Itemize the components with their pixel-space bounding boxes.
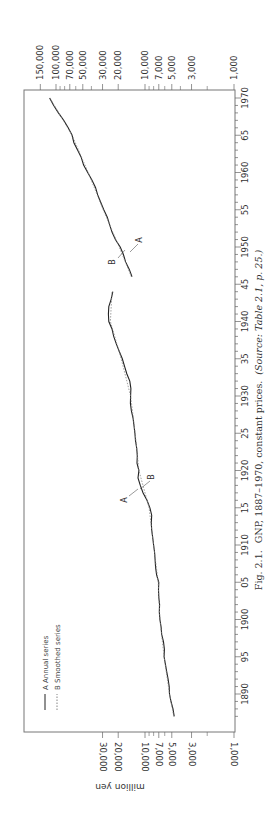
value-tick-label: 100,000 <box>51 45 61 80</box>
value-tick-label: 3,000 <box>187 742 197 766</box>
series-annotation: A <box>120 497 129 503</box>
value-tick-label: 20,000 <box>113 742 123 772</box>
y-axis-label: million yen <box>95 782 144 792</box>
value-tick-label: 10,000 <box>140 50 150 80</box>
year-tick-label: 1970 <box>240 87 250 109</box>
year-tick-label: 1900 <box>240 609 250 631</box>
legend-label-a: A Annual series <box>42 635 50 690</box>
year-tick-label: 1910 <box>240 534 250 556</box>
year-tick-label: 1960 <box>240 162 250 184</box>
value-tick-label: 150,000 <box>35 45 45 80</box>
series-annotation: B <box>108 259 117 265</box>
value-axis-bottom: 30,00020,00010,0007,0005,0003,0001,000 <box>98 732 239 772</box>
value-tick-label: 20,000 <box>113 50 123 80</box>
year-tick-label: 25 <box>240 428 250 439</box>
value-tick-label: 70,000 <box>65 50 75 80</box>
value-tick-label: 10,000 <box>140 742 150 772</box>
annual-series-line <box>108 292 174 717</box>
legend: A Annual series B Smoothed series <box>42 624 62 710</box>
year-tick-label: 1920 <box>240 460 250 482</box>
value-tick-label: 30,000 <box>98 50 108 80</box>
year-tick-label: 1940 <box>240 311 250 333</box>
year-tick-label: 05 <box>240 577 250 588</box>
legend-label-b: B Smoothed series <box>54 624 62 690</box>
year-tick-label: 15 <box>240 502 250 513</box>
year-tick-label: 1930 <box>240 385 250 407</box>
year-tick-label: 65 <box>240 130 250 141</box>
gnp-chart: 1890951900051910151920251930351940451950… <box>0 0 273 826</box>
smoothed-series-line <box>50 98 131 277</box>
figure-caption: Fig. 2.1. GNP, 1887–1970, constant price… <box>253 250 264 591</box>
value-axis-top: 150,000100,00070,00050,00030,00020,00010… <box>35 45 239 90</box>
value-tick-label: 1,000 <box>229 742 239 766</box>
year-tick-label: 95 <box>240 651 250 662</box>
value-tick-label: 50,000 <box>78 50 88 80</box>
year-tick-label: 45 <box>240 279 250 290</box>
year-tick-label: 1950 <box>240 236 250 258</box>
year-axis: 1890951900051910151920251930351940451950… <box>235 87 250 716</box>
value-tick-label: 3,000 <box>187 56 197 80</box>
value-tick-label: 30,000 <box>98 742 108 772</box>
year-tick-label: 1890 <box>240 683 250 705</box>
year-tick-label: 35 <box>240 353 250 364</box>
value-tick-label: 7,000 <box>154 56 164 80</box>
year-tick-label: 55 <box>240 204 250 215</box>
value-tick-label: 7,000 <box>154 742 164 766</box>
annual-series-line <box>50 98 132 277</box>
value-tick-label: 1,000 <box>229 56 239 80</box>
series-annotation: A <box>135 237 144 243</box>
series-lines <box>50 98 175 716</box>
value-tick-label: 5,000 <box>167 742 177 766</box>
series-annotation: B <box>147 474 156 480</box>
value-tick-label: 5,000 <box>167 56 177 80</box>
